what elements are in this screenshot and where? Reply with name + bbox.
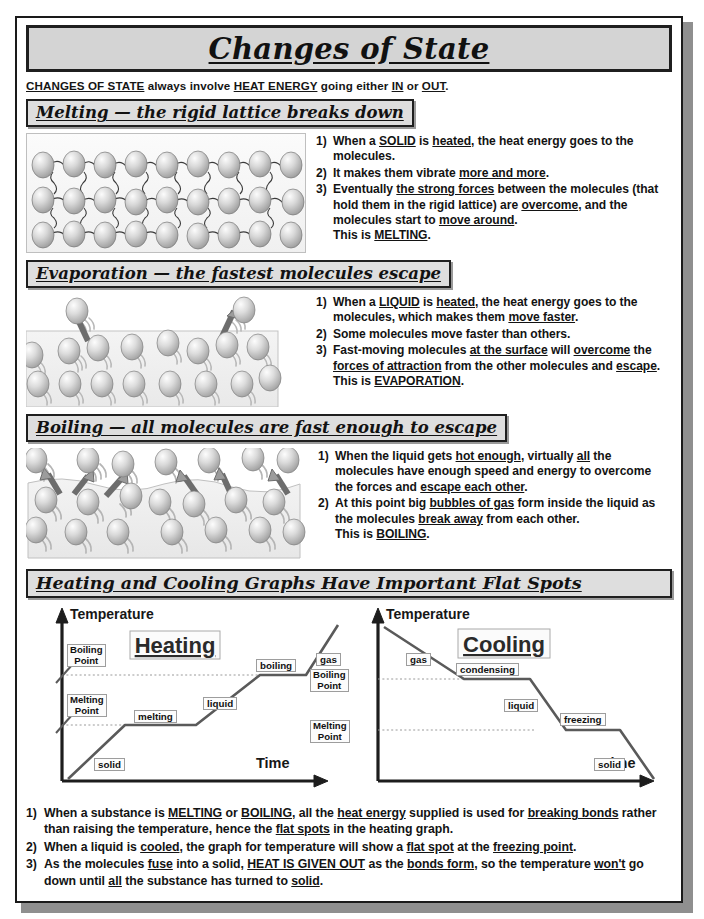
intro-part-2: always involve xyxy=(144,79,233,92)
section-header-boiling-label: Boiling — all molecules are fast enough … xyxy=(36,418,497,437)
list-item: 1)When a SOLID is heated, the heat energ… xyxy=(316,134,672,165)
list-item-number: 3) xyxy=(316,182,327,197)
boiling-points: 1)When the liquid gets hot enough, virtu… xyxy=(308,448,672,543)
heating-title: Heating xyxy=(135,633,216,658)
list-item-number: 1) xyxy=(26,805,37,821)
cooling-graph-svg: Cooling xyxy=(344,603,672,799)
summary-notes-list: 1)When a substance is MELTING or BOILING… xyxy=(26,805,672,889)
list-item-number: 2) xyxy=(316,327,327,342)
intro-part-6: or xyxy=(403,79,421,92)
section-header-melting-label: Melting — the rigid lattice breaks down xyxy=(36,103,404,122)
intro-line: CHANGES OF STATE always involve HEAT ENE… xyxy=(26,79,672,92)
list-item: 3)As the molecules fuse into a solid, HE… xyxy=(26,856,672,889)
heating-graph: Heating Temperature Time Boiling Point M… xyxy=(28,603,348,799)
section-header-melting: Melting — the rigid lattice breaks down xyxy=(26,99,414,127)
section-header-graphs-label: Heating and Cooling Graphs Have Importan… xyxy=(36,573,582,593)
summary-notes: 1)When a substance is MELTING or BOILING… xyxy=(26,805,672,889)
list-item-number: 2) xyxy=(26,839,37,855)
worksheet-page: Changes of State CHANGES OF STATE always… xyxy=(15,16,683,903)
evaporation-points: 1)When a LIQUID is heated, the heat ener… xyxy=(306,294,672,390)
section-body-melting: 1)When a SOLID is heated, the heat energ… xyxy=(26,133,672,253)
evaporation-points-list: 1)When a LIQUID is heated, the heat ener… xyxy=(316,295,672,389)
list-item-number: 3) xyxy=(26,856,37,872)
list-item-number: 3) xyxy=(316,343,327,358)
list-item: 3)Fast-moving molecules at the surface w… xyxy=(316,343,672,389)
list-item: 2)When a liquid is cooled, the graph for… xyxy=(26,839,672,855)
cooling-title: Cooling xyxy=(463,632,545,657)
list-item: 1)When a substance is MELTING or BOILING… xyxy=(26,805,672,838)
page-title: Changes of State xyxy=(209,32,490,66)
heating-graph-svg: Heating xyxy=(28,603,348,799)
list-item: 2)At this point big bubbles of gas form … xyxy=(318,496,672,542)
heating-title-box: Heating xyxy=(130,631,220,659)
section-header-evaporation: Evaporation — the fastest molecules esca… xyxy=(26,260,451,288)
evaporation-diagram xyxy=(26,294,306,407)
boiling-figure xyxy=(26,448,308,560)
cooling-title-box: Cooling xyxy=(458,629,550,658)
list-item-number: 1) xyxy=(316,295,327,310)
list-item: 3)Eventually the strong forces between t… xyxy=(316,182,672,244)
evaporation-figure xyxy=(26,294,306,407)
intro-part-4: going either xyxy=(317,79,391,92)
melting-figure xyxy=(26,133,306,253)
list-item: 2)It makes them vibrate more and more. xyxy=(316,166,672,181)
list-item-number: 2) xyxy=(316,166,327,181)
intro-part-out: OUT xyxy=(422,79,446,92)
cooling-reference-lines xyxy=(378,679,534,730)
melting-points: 1)When a SOLID is heated, the heat energ… xyxy=(306,133,672,245)
list-item: 1)When a LIQUID is heated, the heat ener… xyxy=(316,295,672,326)
cooling-graph: Cooling Temperature Time Boiling Point M… xyxy=(344,603,672,799)
heating-axis-ticks xyxy=(56,665,72,733)
section-body-boiling: 1)When the liquid gets hot enough, virtu… xyxy=(26,448,672,560)
intro-part-changes-of-state: CHANGES OF STATE xyxy=(26,79,144,92)
melting-points-list: 1)When a SOLID is heated, the heat energ… xyxy=(316,134,672,244)
section-header-boiling: Boiling — all molecules are fast enough … xyxy=(26,414,507,442)
heating-reference-lines xyxy=(62,675,260,725)
list-item-number: 1) xyxy=(316,134,327,149)
section-header-evaporation-label: Evaporation — the fastest molecules esca… xyxy=(36,264,441,283)
intro-part-in: IN xyxy=(392,79,404,92)
boiling-points-list: 1)When the liquid gets hot enough, virtu… xyxy=(318,449,672,542)
section-body-evaporation: 1)When a LIQUID is heated, the heat ener… xyxy=(26,294,672,407)
graphs-area: Heating Temperature Time Boiling Point M… xyxy=(26,603,672,803)
list-item: 2)Some molecules move faster than others… xyxy=(316,327,672,342)
list-item: 1)When the liquid gets hot enough, virtu… xyxy=(318,449,672,495)
list-item-number: 1) xyxy=(318,449,329,464)
intro-part-8: . xyxy=(445,79,448,92)
melting-lattice-diagram xyxy=(27,134,306,253)
intro-part-heat-energy: HEAT ENERGY xyxy=(234,79,318,92)
section-header-graphs: Heating and Cooling Graphs Have Importan… xyxy=(26,569,672,598)
boiling-diagram xyxy=(26,448,308,560)
list-item-number: 2) xyxy=(318,496,329,511)
page-title-banner: Changes of State xyxy=(26,25,672,72)
